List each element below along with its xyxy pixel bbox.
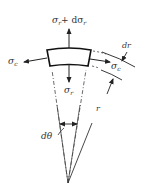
stress-element-diagram: σr+ dσr σr σc σc dr r dθ: [0, 0, 149, 186]
label-radius: r: [96, 104, 101, 113]
arrow-circ-left: [24, 58, 47, 62]
radius-line: [68, 123, 92, 183]
label-circ-right: σc: [111, 61, 121, 72]
label-angle: dθ: [41, 131, 53, 141]
label-circ-left: σc: [8, 56, 18, 67]
element-block: [47, 48, 91, 66]
arrow-circ-right: [90, 59, 110, 62]
extension-arc-bottom: [92, 66, 99, 68]
label-radial-bottom: σr: [64, 85, 74, 96]
arrow-thickness: [122, 52, 127, 61]
label-thickness: dr: [122, 41, 132, 50]
arrow-radius: [107, 79, 113, 94]
label-radial-top: σr+ dσr: [52, 15, 87, 26]
